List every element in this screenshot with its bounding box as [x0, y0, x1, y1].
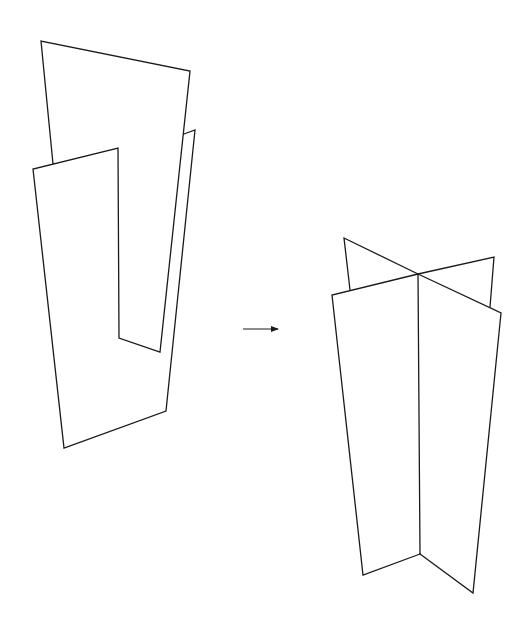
folded-shape-before [33, 41, 195, 448]
left-figure-edge-0 [33, 41, 195, 448]
right-figure-edge-3 [418, 274, 501, 593]
right-figure-edge-0 [344, 238, 418, 290]
right-figure-edge-1 [418, 257, 494, 307]
diagram-canvas [0, 0, 529, 624]
right-figure-edge-2 [332, 274, 420, 575]
cross-shape-after [332, 238, 501, 593]
right-figure-edge-4 [418, 274, 420, 554]
